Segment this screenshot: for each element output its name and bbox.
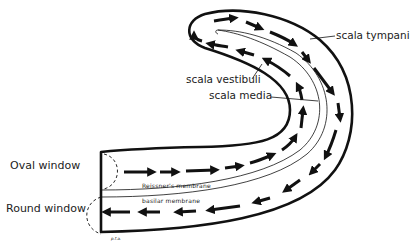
label-round-window: Round window	[6, 202, 86, 215]
upper-channel-arrows	[124, 35, 303, 172]
label-oval-window: Oval window	[10, 159, 80, 172]
reissners-membrane-line	[101, 30, 320, 190]
outer-wall	[101, 11, 352, 232]
artist-signature: p.f.a.	[111, 236, 121, 241]
scala-media-leader	[271, 97, 318, 101]
label-basilar-membrane: basilar membrane	[142, 197, 200, 204]
label-reissners-membrane: Reissner's membrane	[142, 182, 211, 189]
round-window-outline	[87, 197, 101, 234]
label-scala-vestibuli: scala vestibuli	[186, 73, 261, 85]
label-scala-media: scala media	[209, 89, 272, 101]
oval-window-outline	[104, 154, 118, 189]
label-scala-tympani: scala tympani	[336, 29, 410, 41]
